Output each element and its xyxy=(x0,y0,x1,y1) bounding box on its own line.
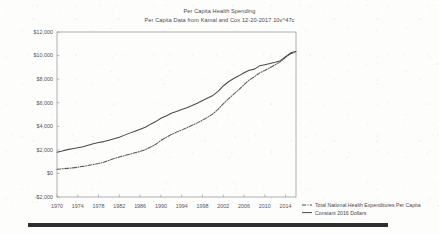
y-axis-tick-label: $2,000 xyxy=(37,147,54,153)
axis-tick-marks xyxy=(57,32,286,197)
x-axis-tick-label: 2014 xyxy=(280,203,292,209)
chart-figure: Per Capita Health Spending Per Capita Da… xyxy=(0,0,439,234)
y-axis-tick-label: $0 xyxy=(47,170,53,176)
legend-label-1: Constant 2016 Dollars xyxy=(315,210,367,216)
data-series-lines xyxy=(57,51,296,169)
x-axis-tick-label: 1998 xyxy=(196,203,208,209)
x-axis-tick-label: 1970 xyxy=(51,203,63,209)
y-axis-tick-label: $12,000 xyxy=(34,29,54,35)
x-axis-tick-labels: 1970197419781982198619901994199820022006… xyxy=(51,203,292,209)
y-axis-tick-label: $4,000 xyxy=(37,123,54,129)
y-axis-tick-labels: -$2,000$0$2,000$4,000$6,000$8,000$10,000… xyxy=(34,29,54,200)
x-axis-tick-label: 1994 xyxy=(176,203,188,209)
chart-plot-area: -$2,000$0$2,000$4,000$6,000$8,000$10,000… xyxy=(0,0,439,234)
y-axis-tick-label: $6,000 xyxy=(37,100,54,106)
x-axis-tick-label: 1978 xyxy=(93,203,105,209)
x-axis-tick-label: 1986 xyxy=(134,203,146,209)
y-axis-tick-label: $8,000 xyxy=(37,76,54,82)
legend-label-0: Total National Health Expenditures Per C… xyxy=(315,202,421,208)
x-axis-tick-label: 2006 xyxy=(238,203,250,209)
x-axis-tick-label: 1982 xyxy=(113,203,125,209)
x-axis-tick-label: 1974 xyxy=(72,203,84,209)
plot-axis-frame xyxy=(57,32,296,197)
chart-legend: Total National Health Expenditures Per C… xyxy=(302,202,421,216)
data-series-line-0 xyxy=(57,51,296,169)
x-axis-tick-label: 1990 xyxy=(155,203,167,209)
data-series-line-1 xyxy=(57,51,296,152)
x-axis-tick-label: 2010 xyxy=(259,203,271,209)
y-axis-tick-label: -$2,000 xyxy=(35,194,53,200)
x-axis-tick-label: 2002 xyxy=(217,203,229,209)
y-axis-tick-label: $10,000 xyxy=(34,52,54,58)
scan-artifact-bar xyxy=(28,223,388,227)
